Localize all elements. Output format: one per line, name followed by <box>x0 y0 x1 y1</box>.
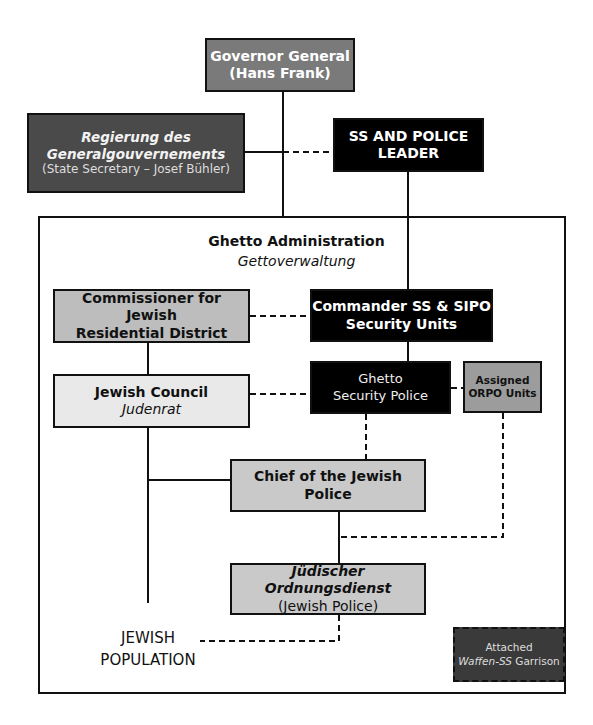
commander-ss-line1: Commander SS & SIPO <box>312 298 491 316</box>
ordnungsdienst-title: Jüdischer Ordnungsdienst <box>232 563 424 598</box>
commissioner-box: Commissioner for Jewish Residential Dist… <box>53 289 250 343</box>
orpo-units-line2: ORPO Units <box>468 387 536 400</box>
waffen-ss-line1: Attached <box>485 641 532 654</box>
chief-jewish-police-title: Chief of the Jewish Police <box>232 468 424 503</box>
ghetto-administration-heading: Ghetto Administration Gettoverwaltung <box>0 232 593 271</box>
regierung-box: Regierung des Generalgouvernements (Stat… <box>27 113 245 193</box>
waffen-ss-italic: Waffen-SS <box>458 655 512 667</box>
ghetto-administration-frame <box>38 216 566 694</box>
jewish-council-box: Jewish Council Judenrat <box>53 374 250 428</box>
jewish-population-label: JEWISH POPULATION <box>78 628 218 672</box>
jewish-population-line1: JEWISH <box>78 628 218 650</box>
waffen-ss-line2: Waffen-SS Garrison <box>458 655 560 668</box>
chief-jewish-police-box: Chief of the Jewish Police <box>230 459 426 512</box>
commissioner-line2: Residential District <box>76 325 228 343</box>
ghetto-security-police-line2: Security Police <box>333 388 428 404</box>
regierung-title-1: Regierung des <box>81 129 190 146</box>
regierung-secretary: (State Secretary – Josef Bühler) <box>42 162 230 177</box>
governor-general-title: Governor General <box>210 48 350 66</box>
orpo-units-line1: Assigned <box>476 374 530 387</box>
ghetto-admin-subtitle: Gettoverwaltung <box>0 252 593 272</box>
ss-police-leader-line2: LEADER <box>378 145 439 163</box>
regierung-title-2: Generalgouvernements <box>47 146 226 163</box>
jewish-council-subtitle: Judenrat <box>122 401 181 419</box>
waffen-ss-box: Attached Waffen-SS Garrison <box>453 627 565 682</box>
orpo-units-box: Assigned ORPO Units <box>463 361 542 413</box>
jewish-council-title: Jewish Council <box>95 384 208 402</box>
ss-police-leader-line1: SS AND POLICE <box>349 128 469 146</box>
commander-ss-line2: Security Units <box>346 316 457 334</box>
governor-general-name: (Hans Frank) <box>229 65 330 83</box>
ss-police-leader-box: SS AND POLICE LEADER <box>333 118 484 172</box>
governor-general-box: Governor General (Hans Frank) <box>205 38 355 92</box>
ghetto-security-police-box: Ghetto Security Police <box>310 361 451 414</box>
ghetto-security-police-line1: Ghetto <box>358 371 402 387</box>
ghetto-admin-title: Ghetto Administration <box>0 232 593 252</box>
ordnungsdienst-subtitle: (Jewish Police) <box>278 598 378 616</box>
commissioner-line1: Commissioner for Jewish <box>55 290 248 325</box>
waffen-ss-rest: Garrison <box>512 655 560 667</box>
ordnungsdienst-box: Jüdischer Ordnungsdienst (Jewish Police) <box>230 563 426 615</box>
commander-ss-box: Commander SS & SIPO Security Units <box>310 289 493 342</box>
jewish-population-line2: POPULATION <box>78 650 218 672</box>
